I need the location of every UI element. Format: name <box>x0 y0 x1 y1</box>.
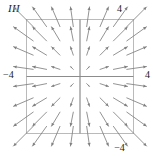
vector-arrow <box>33 84 47 88</box>
vector-arrow <box>100 98 108 106</box>
vector-arrow <box>87 112 91 126</box>
vector-arrow <box>33 66 47 70</box>
vector-arrow <box>113 84 127 88</box>
vector-arrow <box>87 98 90 106</box>
vector-arrow <box>87 7 91 27</box>
vector-arrow <box>69 7 73 27</box>
vector-arrow <box>87 27 91 41</box>
vector-arrow <box>113 98 127 106</box>
vector-arrow <box>113 66 127 70</box>
vector-arrow <box>14 46 34 55</box>
vector-arrow <box>127 112 147 126</box>
vector-arrow <box>87 47 90 55</box>
vector-arrow <box>113 27 127 41</box>
vector-arrow <box>52 66 60 69</box>
vector-arrow <box>14 126 34 146</box>
vector-arrow <box>14 112 34 126</box>
vector-arrow <box>100 27 108 41</box>
vector-arrow <box>14 84 34 88</box>
vector-arrow <box>127 126 147 146</box>
vector-field-figure: III 4 −4 −4 4 <box>0 0 153 156</box>
vector-arrow <box>113 7 127 27</box>
vector-arrow <box>33 98 47 106</box>
vector-arrow <box>14 27 34 41</box>
vector-arrow <box>127 46 147 55</box>
vector-arrow <box>113 112 127 126</box>
vector-arrow <box>52 27 60 41</box>
vector-arrow <box>100 47 108 55</box>
vector-arrow <box>33 7 47 27</box>
vector-arrow <box>127 84 147 88</box>
vector-arrow <box>113 126 127 146</box>
vector-arrow <box>127 98 147 107</box>
vector-arrow <box>100 66 108 69</box>
vector-arrow <box>87 84 90 87</box>
vector-arrow <box>14 7 34 27</box>
vector-arrow <box>69 126 73 146</box>
vector-arrow <box>87 67 90 70</box>
vector-arrow <box>100 7 109 27</box>
vector-arrow <box>33 47 47 55</box>
vector-arrow <box>127 7 147 27</box>
vector-arrow <box>70 98 73 106</box>
vector-arrow <box>100 84 108 87</box>
vector-arrow <box>51 7 60 27</box>
vector-arrow <box>52 47 60 55</box>
vector-arrow <box>71 84 74 87</box>
vector-arrow <box>52 84 60 87</box>
vector-arrow <box>52 112 60 126</box>
vector-arrow <box>127 27 147 41</box>
vector-arrow <box>113 47 127 55</box>
vector-arrow <box>100 112 108 126</box>
vector-arrow <box>14 65 34 69</box>
vector-arrow <box>33 27 47 41</box>
vector-arrow <box>87 126 91 146</box>
vector-arrow <box>71 67 74 70</box>
vector-arrow <box>33 126 47 146</box>
vector-arrow <box>127 65 147 69</box>
vector-field-plot <box>0 0 153 156</box>
vector-arrow <box>33 112 47 126</box>
vector-arrow <box>52 98 60 106</box>
vector-arrow <box>70 27 74 41</box>
vector-arrow <box>100 126 109 146</box>
vector-arrow <box>51 126 60 146</box>
vector-arrow <box>70 47 73 55</box>
vector-arrow <box>14 98 34 107</box>
vector-arrow <box>70 112 74 126</box>
